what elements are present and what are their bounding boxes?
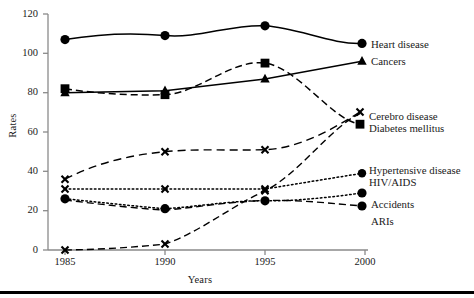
series-hiv-aids-rising — [62, 114, 361, 254]
series-aris-dashed — [65, 200, 367, 211]
series-label-hivaids-line2: HIV/AIDS — [369, 176, 460, 188]
series-aris-dotted — [60, 188, 366, 213]
x-tick-1985: 1985 — [35, 256, 95, 267]
y-tick-120: 120 — [4, 8, 38, 19]
y-axis-title: Rates — [7, 96, 18, 156]
series-label-cerebro-diabetes: Cerebro disease Diabetes mellitus — [369, 110, 444, 135]
x-tick-2000: 2000 — [335, 256, 395, 267]
series-label-cerebro-line1: Cerebro disease — [369, 110, 444, 122]
figure-container: 120 100 80 60 40 20 0 1985 1990 1995 200… — [0, 0, 474, 298]
series-label-accidents: Accidents — [371, 198, 414, 210]
y-tick-20: 20 — [4, 204, 38, 215]
y-tick-0: 0 — [4, 244, 38, 255]
series-accidents — [62, 169, 367, 192]
bottom-rule-divider — [0, 291, 474, 294]
series-label-diabetes-line2: Diabetes mellitus — [369, 122, 444, 134]
series-label-heart-disease: Heart disease — [371, 38, 429, 50]
series-hypertensive-hiv — [62, 108, 364, 182]
x-tick-1990: 1990 — [135, 256, 195, 267]
series-label-aris: ARIs — [371, 215, 394, 227]
series-label-hypertensive-hiv: Hypertensive disease HIV/AIDS — [369, 164, 460, 189]
x-axis-title: Years — [130, 274, 270, 285]
series-cancers — [60, 56, 366, 96]
series-label-hypertensive-line1: Hypertensive disease — [369, 164, 460, 176]
y-tick-40: 40 — [4, 165, 38, 176]
x-tick-1995: 1995 — [235, 256, 295, 267]
y-tick-100: 100 — [4, 47, 38, 58]
series-heart-disease — [60, 21, 366, 48]
series-label-cancers: Cancers — [371, 55, 406, 67]
